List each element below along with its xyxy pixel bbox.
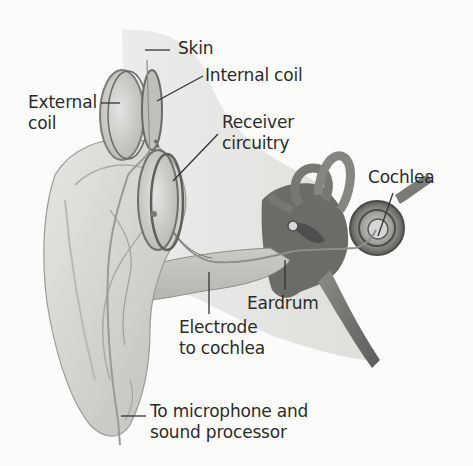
label-internal-coil: Internal coil [205, 66, 303, 85]
label-receiver-line1: Receiver [222, 113, 294, 132]
label-electrode-line1: Electrode [179, 318, 257, 337]
label-external-coil-line1: External [28, 93, 97, 112]
label-eardrum: Eardrum [247, 294, 319, 313]
cochlear-implant-diagram: Skin Internal coil External coil Receive… [0, 0, 473, 466]
label-external-coil-line2: coil [28, 114, 56, 133]
external-coil-disk [100, 70, 144, 160]
label-cochlea: Cochlea [368, 168, 435, 187]
label-electrode-line2: to cochlea [179, 339, 265, 358]
label-receiver-line2: circuitry [222, 134, 289, 153]
internal-coil-disk [142, 70, 162, 150]
label-skin: Skin [178, 39, 213, 58]
label-microphone-line1: To microphone and [150, 402, 308, 421]
label-microphone-line2: sound processor [150, 423, 287, 442]
